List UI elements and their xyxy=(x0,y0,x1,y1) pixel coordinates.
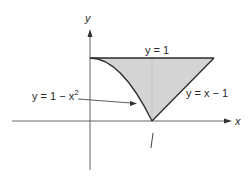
label-y-equals-1: y = 1 xyxy=(145,44,169,56)
x-axis-label: x xyxy=(234,115,241,127)
x-axis-arrow-icon xyxy=(224,119,232,124)
tick-1 xyxy=(151,133,153,148)
leader-arrow-icon xyxy=(130,101,137,106)
label-parabola: y = 1 − x2 xyxy=(32,88,79,102)
leader-line xyxy=(78,99,131,103)
label-parabola-exponent: 2 xyxy=(74,88,79,97)
y-axis-arrow-icon xyxy=(88,29,93,37)
region-diagram: y x y = 1 y = x − 1 y = 1 − x2 xyxy=(0,0,251,177)
y-axis-label: y xyxy=(84,12,92,24)
label-line: y = x − 1 xyxy=(186,87,228,99)
label-parabola-base: y = 1 − x xyxy=(32,90,75,102)
